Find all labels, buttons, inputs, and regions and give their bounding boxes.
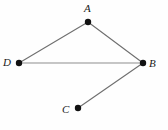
- vertex-point-C: [75, 105, 81, 111]
- segment-AB: [88, 22, 143, 63]
- point-label-A: A: [84, 3, 91, 14]
- segment-BC: [78, 63, 143, 108]
- point-label-C: C: [62, 104, 69, 115]
- vertex-point-B: [140, 60, 146, 66]
- point-label-B: B: [149, 58, 156, 69]
- geometry-figure: A B C D: [0, 0, 168, 130]
- vertex-point-A: [85, 19, 91, 25]
- figure-canvas: [0, 0, 168, 130]
- vertex-point-D: [16, 60, 22, 66]
- segment-DA: [19, 22, 88, 63]
- point-label-D: D: [3, 57, 11, 68]
